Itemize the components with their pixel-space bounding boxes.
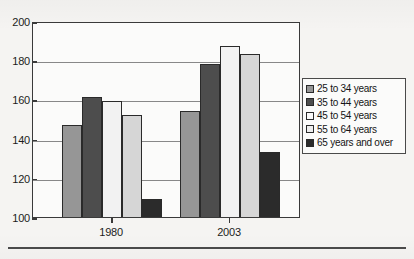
bar-1980-series-5 — [142, 199, 162, 217]
chart-page: 100120140160180200 25 to 34 years35 to 4… — [0, 0, 414, 259]
legend-label-2: 35 to 44 years — [317, 97, 377, 108]
bar-1980-series-4 — [122, 115, 142, 217]
y-tick-label-200: 200 — [2, 16, 30, 28]
x-axis-label-1980: 1980 — [99, 226, 123, 238]
legend-swatch-icon-4 — [306, 125, 314, 133]
bar-group-1980 — [62, 23, 162, 217]
y-tick-label-140: 140 — [2, 134, 30, 146]
y-tick-mark-180 — [32, 61, 37, 63]
legend-label-3: 45 to 54 years — [317, 110, 377, 121]
bar-1980-series-1 — [62, 125, 82, 217]
legend-swatch-icon-1 — [306, 85, 314, 93]
bar-1980-series-2 — [82, 97, 102, 217]
y-tick-label-120: 120 — [2, 173, 30, 185]
legend-label-4: 55 to 64 years — [317, 124, 377, 135]
y-tick-mark-100 — [32, 218, 37, 220]
y-tick-mark-120 — [32, 179, 37, 181]
bar-group-2003 — [180, 23, 280, 217]
y-tick-label-160: 160 — [2, 94, 30, 106]
legend-item-3[interactable]: 45 to 54 years — [306, 109, 403, 123]
legend-item-5[interactable]: 65 years and over — [306, 136, 403, 150]
bar-2003-series-4 — [240, 54, 260, 217]
legend-label-5: 65 years and over — [317, 137, 393, 148]
legend-item-4[interactable]: 55 to 64 years — [306, 123, 403, 137]
legend-label-1: 25 to 34 years — [317, 83, 377, 94]
bar-2003-series-1 — [180, 111, 200, 217]
bar-2003-series-2 — [200, 64, 220, 217]
y-tick-mark-140 — [32, 140, 37, 142]
y-tick-mark-160 — [32, 100, 37, 102]
plot-area — [32, 22, 300, 218]
legend-swatch-icon-3 — [306, 112, 314, 120]
x-tick-mark-1980 — [111, 218, 113, 223]
y-tick-mark-200 — [32, 22, 37, 24]
x-tick-mark-2003 — [229, 218, 231, 223]
y-tick-label-100: 100 — [2, 212, 30, 224]
legend-swatch-icon-2 — [306, 98, 314, 106]
page-rule — [8, 247, 406, 249]
x-axis-label-2003: 2003 — [217, 226, 241, 238]
bar-2003-series-5 — [260, 152, 280, 217]
legend-item-2[interactable]: 35 to 44 years — [306, 96, 403, 110]
legend-swatch-icon-5 — [306, 139, 314, 147]
bar-1980-series-3 — [102, 101, 122, 217]
y-axis: 100120140160180200 — [0, 22, 30, 218]
chart-legend: 25 to 34 years35 to 44 years45 to 54 yea… — [302, 78, 406, 154]
bar-2003-series-3 — [220, 46, 240, 217]
legend-item-1[interactable]: 25 to 34 years — [306, 82, 403, 96]
y-tick-label-180: 180 — [2, 55, 30, 67]
